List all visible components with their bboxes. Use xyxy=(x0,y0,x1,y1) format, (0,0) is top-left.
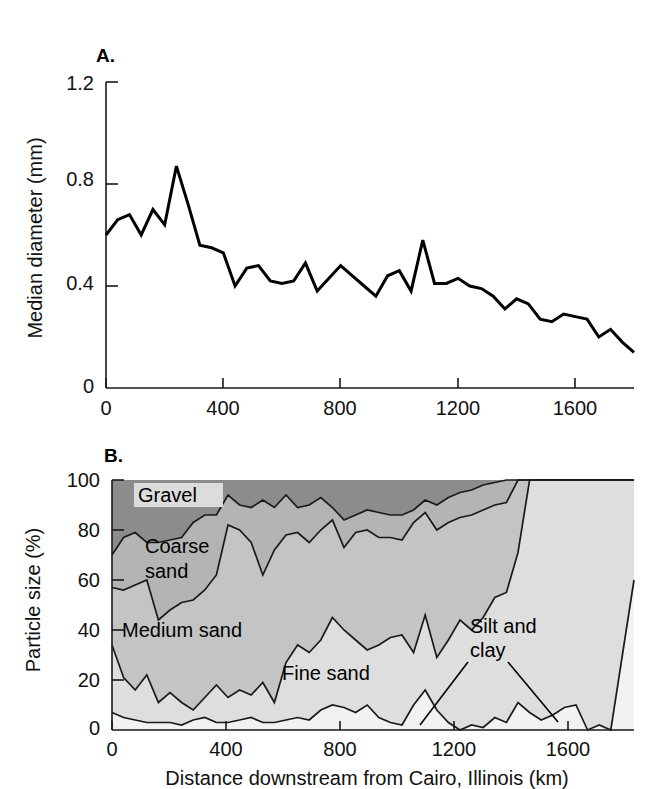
panel-b-xtick-0: 0 xyxy=(106,738,117,760)
panel-a-ytick-0.8: 0.8 xyxy=(66,168,94,190)
fine-sand-label: Fine sand xyxy=(282,662,370,684)
panel-a-y-axis-title: Median diameter (mm) xyxy=(24,137,46,338)
silt-and-clay-label-line1: Silt and xyxy=(470,615,537,637)
panel-b-y-axis-title: Particle size (%) xyxy=(22,528,44,672)
panel-a-ytick-0.4: 0.4 xyxy=(66,272,94,294)
panel-a-ytick-1.2: 1.2 xyxy=(66,72,94,94)
panel-b-x-axis-title: Distance downstream from Cairo, Illinois… xyxy=(165,767,568,789)
panel-b-ytick-100: 100 xyxy=(67,469,100,491)
panel-b-chart: B. Particle size (%) 100 80 60 40 20 0 0… xyxy=(0,430,665,789)
panel-b-xtick-400: 400 xyxy=(209,738,242,760)
panel-b-ytick-80: 80 xyxy=(78,519,100,541)
panel-a-xtick-0: 0 xyxy=(100,397,111,419)
medium-sand-label: Medium sand xyxy=(122,619,242,641)
silt-and-clay-label-line2: clay xyxy=(470,639,506,661)
panel-a-xtick-800: 800 xyxy=(323,397,356,419)
panel-b-stacked-bands xyxy=(112,480,634,730)
panel-a-xtick-1600: 1600 xyxy=(553,397,598,419)
figure-root: A. Median diameter (mm) 1.2 0.8 0.4 0 0 … xyxy=(0,0,665,789)
panel-a-chart: A. Median diameter (mm) 1.2 0.8 0.4 0 0 … xyxy=(0,0,665,430)
panel-b-xtick-1200: 1200 xyxy=(432,738,477,760)
coarse-sand-label-line2: sand xyxy=(145,560,188,582)
panel-b-ytick-60: 60 xyxy=(78,569,100,591)
panel-b-ytick-20: 20 xyxy=(78,669,100,691)
panel-b-ytick-0: 0 xyxy=(89,717,100,739)
panel-a-xtick-400: 400 xyxy=(206,397,239,419)
coarse-sand-label-line1: Coarse xyxy=(145,535,209,557)
panel-a-xtick-1200: 1200 xyxy=(436,397,481,419)
panel-b-xtick-800: 800 xyxy=(323,738,356,760)
panel-b-ytick-40: 40 xyxy=(78,619,100,641)
panel-a-median-diameter-line xyxy=(106,166,634,352)
gravel-label: Gravel xyxy=(138,484,197,506)
panel-b-letter: B. xyxy=(104,445,123,466)
panel-a-ytick-0: 0 xyxy=(83,375,94,397)
panel-a-letter: A. xyxy=(96,45,115,66)
panel-b-xtick-1600: 1600 xyxy=(546,738,591,760)
